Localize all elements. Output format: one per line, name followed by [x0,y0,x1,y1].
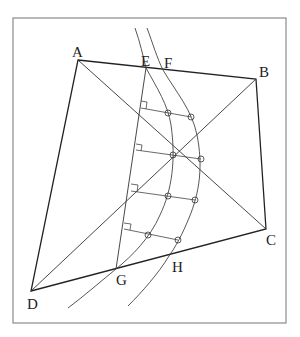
label-b: B [259,64,269,80]
label-c: C [266,232,276,248]
label-e: E [141,53,150,69]
label-h: H [172,259,183,275]
label-g: G [116,272,127,288]
offset-row-4 [124,223,181,243]
label-f: F [164,55,172,71]
label-a: A [72,44,83,60]
diagonal-ac [78,60,266,229]
geometry-figure: A B C D E F G H [0,0,300,337]
diagonal-bd [31,79,256,291]
label-d: D [27,296,38,312]
offset-point [145,232,151,238]
quadrilateral-abcd [31,60,266,291]
arc-eg [68,28,173,308]
offset-row-2 [136,144,204,162]
